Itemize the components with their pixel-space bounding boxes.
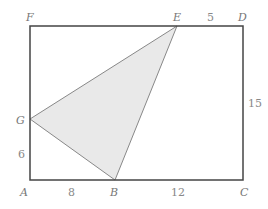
shaded-triangle-gbe bbox=[30, 26, 177, 180]
label-point-c: C bbox=[240, 186, 249, 199]
label-point-a: A bbox=[19, 186, 28, 199]
label-point-d: D bbox=[237, 11, 247, 24]
label-point-e: E bbox=[172, 11, 181, 24]
measure-ed: 5 bbox=[207, 11, 214, 24]
label-point-b: B bbox=[109, 186, 118, 199]
label-point-f: F bbox=[25, 11, 34, 24]
geometry-diagram: F E D G A B C 5 15 6 8 12 bbox=[0, 0, 268, 209]
measure-ab: 8 bbox=[68, 186, 75, 199]
measure-ag: 6 bbox=[18, 148, 25, 161]
label-point-g: G bbox=[16, 114, 25, 127]
measure-dc: 15 bbox=[248, 97, 262, 110]
measure-bc: 12 bbox=[171, 186, 185, 199]
